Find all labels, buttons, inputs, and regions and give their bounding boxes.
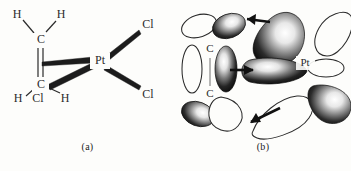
- orbital-pi-star-upper-dark: [209, 9, 249, 43]
- panel-b-orbitals: .olight{fill:#fdfdfb;stroke:#2b2b2b;stro…: [175, 0, 351, 171]
- figure-container: .ln{stroke:#2b2b2b;stroke-width:1.2;fill…: [0, 0, 351, 171]
- orbital-pi-star-lower-light: [209, 97, 242, 131]
- chlorine-upper-right: Cl: [142, 17, 154, 31]
- carbon-lower: C: [37, 77, 45, 91]
- chlorine-bottom: Cl: [32, 91, 44, 105]
- caption-b: (b): [175, 141, 351, 152]
- carbon-upper-orbital: C: [206, 42, 213, 54]
- hydrogen-bottom-left: H: [14, 91, 23, 105]
- hydrogen-top-right: H: [57, 7, 66, 21]
- bond-c-lower-pt: [47, 62, 97, 90]
- orbital-pt-upper-right-light: [315, 12, 351, 56]
- orbital-pt-lower-right-dark: [308, 85, 351, 124]
- hydrogen-bottom-right: H: [61, 91, 70, 105]
- bond-c-upper-pt: [42, 57, 93, 66]
- panel-a-structure: .ln{stroke:#2b2b2b;stroke-width:1.2;fill…: [0, 0, 175, 171]
- bond-c-upper-h-right: [46, 21, 56, 32]
- carbon-lower-orbital: C: [206, 87, 213, 99]
- platinum-center: Pt: [95, 53, 106, 67]
- bond-c-upper-h-left: [23, 20, 34, 33]
- caption-a: (a): [0, 141, 175, 152]
- carbon-upper: C: [37, 32, 45, 46]
- platinum-orbital: Pt: [300, 56, 309, 68]
- orbital-pi-left-light: [182, 45, 202, 93]
- bond-pt-cl-upper: [106, 30, 141, 61]
- hydrogen-top-left: H: [13, 7, 22, 21]
- bond-c-c: [38, 46, 43, 77]
- chlorine-lower-right: Cl: [142, 87, 154, 101]
